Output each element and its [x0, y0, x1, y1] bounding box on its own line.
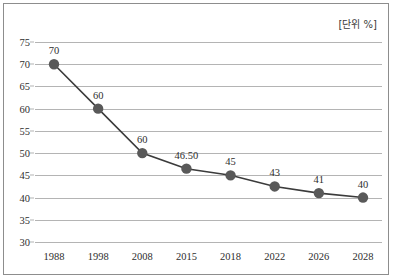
data-point-marker: [270, 181, 280, 191]
gridline: [35, 242, 382, 243]
x-axis-tick-label: 2018: [220, 251, 241, 262]
y-axis-tick-label: 30: [20, 237, 31, 248]
data-point-label: 45: [225, 156, 236, 167]
data-point-label: 40: [358, 179, 369, 190]
x-axis-tick-label: 2015: [176, 251, 197, 262]
data-point-label: 43: [269, 167, 280, 178]
x-axis-tick-label: 2028: [353, 251, 374, 262]
y-axis-tick-label: 65: [20, 81, 31, 92]
y-axis-tick-label: 55: [20, 125, 31, 136]
y-axis-tick-mark: [30, 242, 34, 243]
x-axis-tick-label: 2022: [264, 251, 285, 262]
y-axis-tick-label: 60: [20, 103, 31, 114]
data-point-marker: [181, 163, 191, 173]
y-axis-tick-mark: [30, 42, 34, 43]
y-axis-tick-mark: [30, 108, 34, 109]
y-axis-tick-label: 35: [20, 214, 31, 225]
data-point-label: 60: [93, 90, 104, 101]
data-point-marker: [93, 103, 103, 113]
y-axis-tick-mark: [30, 130, 34, 131]
y-axis-tick-label: 50: [20, 148, 31, 159]
x-axis-tick-label: 1998: [88, 251, 109, 262]
data-point-marker: [225, 170, 235, 180]
y-axis-tick-mark: [30, 219, 34, 220]
y-axis-tick-mark: [30, 153, 34, 154]
y-axis-tick-label: 40: [20, 192, 31, 203]
data-point-marker: [49, 59, 59, 69]
y-axis-tick-label: 70: [20, 59, 31, 70]
y-axis-tick-mark: [30, 86, 34, 87]
x-axis-tick-label: 2026: [308, 251, 329, 262]
line-series: [35, 42, 382, 242]
data-point-label: 41: [314, 174, 325, 185]
y-axis-tick-mark: [30, 64, 34, 65]
chart-frame: [단위 %] 75706560555045403530 198819982008…: [3, 3, 389, 275]
y-axis-tick-mark: [30, 197, 34, 198]
data-point-marker: [358, 192, 368, 202]
data-point-marker: [137, 148, 147, 158]
y-axis-tick-mark: [30, 175, 34, 176]
plot-area: 75706560555045403530 1988199820082015201…: [35, 42, 382, 242]
y-axis-tick-label: 45: [20, 170, 31, 181]
y-axis-tick-label: 75: [20, 37, 31, 48]
x-axis-tick-label: 1988: [44, 251, 65, 262]
unit-note-label: [단위 %]: [339, 16, 377, 31]
x-axis-tick-label: 2008: [132, 251, 153, 262]
data-point-label: 70: [49, 45, 60, 56]
data-point-label: 60: [137, 134, 148, 145]
chart-screenshot: [단위 %] 75706560555045403530 198819982008…: [0, 0, 393, 279]
data-point-label: 46.50: [175, 150, 199, 161]
data-point-marker: [314, 188, 324, 198]
